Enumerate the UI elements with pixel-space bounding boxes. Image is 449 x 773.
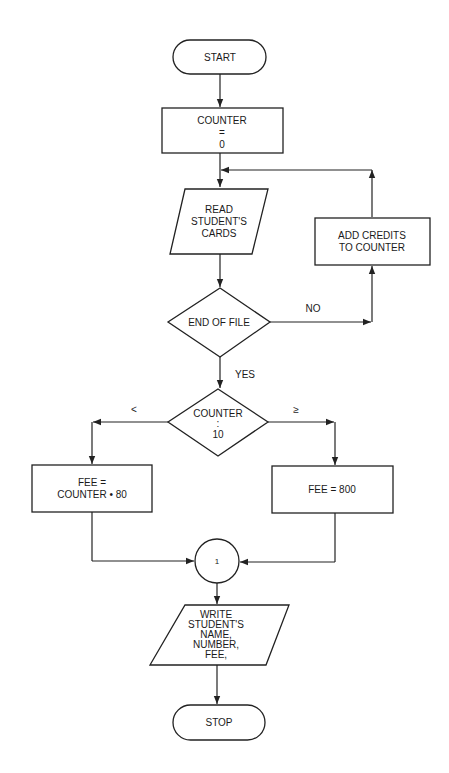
init-counter-box: COUNTER = 0 [162,108,283,153]
read-line-1: READ [205,204,233,215]
compare-line-3: 10 [212,429,224,440]
start-label: START [204,52,236,63]
read-line-3: CARDS [201,228,236,239]
flowchart-canvas: START COUNTER = 0 READ STUDENT'S CARDS A… [0,0,449,773]
fee-calc-line-2: COUNTER • 80 [57,489,127,500]
write-output-io: WRITE STUDENT'S NAME, NUMBER, FEE, [150,605,289,665]
add-line-2: TO COUNTER [339,242,405,253]
counter-compare-decision: COUNTER : 10 [168,389,268,456]
stop-label: STOP [205,717,232,728]
eof-label: END OF FILE [188,317,250,328]
read-line-2: STUDENT'S [191,216,247,227]
add-line-1: ADD CREDITS [338,230,406,241]
yes-label: YES [235,369,255,380]
fee-calc-line-1: FEE = [78,477,106,488]
init-line-2: = [219,127,225,138]
fee-flat-box: FEE = 800 [272,466,393,513]
fee-flat-label: FEE = 800 [308,484,356,495]
add-credits-box: ADD CREDITS TO COUNTER [315,218,430,265]
less-than-label: < [131,404,137,415]
compare-line-2: : [217,418,220,429]
write-line-5: FEE, [205,649,227,660]
no-label: NO [306,303,321,314]
connector-circle: 1 [195,539,239,583]
read-cards-io: READ STUDENT'S CARDS [170,189,268,254]
init-line-1: COUNTER [197,115,246,126]
init-line-3: 0 [219,139,225,150]
fee-calc-box: FEE = COUNTER • 80 [32,465,152,512]
start-terminal: START [173,40,266,74]
end-of-file-decision: END OF FILE [168,288,270,357]
geq-label: ≥ [293,404,299,415]
connector-label: 1 [215,557,220,566]
stop-terminal: STOP [173,705,265,740]
